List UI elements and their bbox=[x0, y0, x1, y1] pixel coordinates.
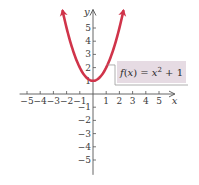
axes: xy bbox=[20, 6, 178, 175]
annotation-formula: f(x) = x2 + 1 bbox=[119, 66, 183, 78]
y-tick-label: −4 bbox=[78, 142, 92, 152]
x-tick-label: 1 bbox=[103, 96, 109, 106]
x-tick-label: −5 bbox=[20, 96, 34, 106]
x-tick-label: 4 bbox=[143, 96, 149, 106]
x-tick-label: 5 bbox=[156, 96, 162, 106]
y-tick-label: 5 bbox=[85, 23, 91, 33]
x-tick-label: 3 bbox=[130, 96, 136, 106]
annotation: f(x) = x2 + 1 bbox=[108, 61, 188, 85]
y-tick-label: −5 bbox=[78, 155, 92, 165]
y-tick-label: −1 bbox=[78, 102, 91, 112]
y-tick-label: 3 bbox=[85, 49, 91, 59]
y-tick-label: −3 bbox=[78, 129, 92, 139]
x-tick-label: 2 bbox=[117, 96, 123, 106]
y-tick-label: 2 bbox=[85, 63, 91, 73]
function-graph: xy −5−4−3−2−112345−5−4−3−2−112345 f(x) =… bbox=[0, 0, 199, 185]
x-tick-label: −4 bbox=[34, 96, 48, 106]
y-tick-label: −2 bbox=[78, 115, 91, 125]
y-tick-label: 4 bbox=[85, 36, 91, 46]
y-axis-label: y bbox=[83, 6, 90, 17]
x-tick-label: −2 bbox=[60, 96, 73, 106]
x-axis-label: x bbox=[172, 95, 178, 106]
x-tick-label: −3 bbox=[47, 96, 61, 106]
